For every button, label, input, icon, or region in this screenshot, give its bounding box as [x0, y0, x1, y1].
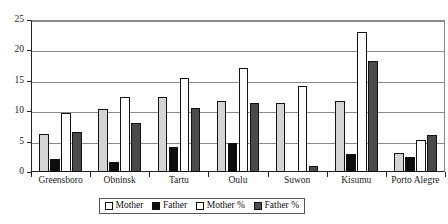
legend-label: Mother: [116, 201, 144, 211]
bar: [368, 61, 378, 172]
bar: [298, 86, 308, 172]
bar: [357, 32, 367, 172]
bar: [405, 157, 415, 172]
x-axis-tick-label: Oulu: [208, 176, 267, 186]
legend-item: Father: [152, 201, 187, 211]
legend-item: Mother: [105, 201, 143, 211]
bar: [309, 166, 319, 172]
x-axis-tick-label: Kisumu: [327, 176, 386, 186]
bar: [72, 132, 82, 172]
bar-group: [31, 20, 90, 172]
bar: [416, 140, 426, 172]
bar: [228, 143, 238, 172]
bar: [394, 153, 404, 172]
bar: [191, 108, 201, 172]
legend-swatch-icon: [152, 202, 160, 210]
y-axis-tick-label: 20: [4, 45, 24, 55]
y-axis-tick-label: 10: [4, 106, 24, 116]
legend-swatch-icon: [105, 202, 113, 210]
bar: [276, 103, 286, 172]
legend-label: Father %: [265, 201, 300, 211]
bar: [61, 113, 71, 172]
bar: [120, 97, 130, 172]
y-axis-tick-label: 5: [4, 137, 24, 147]
legend-label: Father: [163, 201, 187, 211]
bar: [335, 101, 345, 172]
bar: [131, 123, 141, 172]
bar: [346, 154, 356, 172]
bar: [158, 97, 168, 172]
bar: [109, 162, 119, 172]
x-axis-labels: GreensboroObninskTartuOuluSuwonKisumuPor…: [31, 176, 445, 192]
bar-group: [327, 20, 386, 172]
x-axis-tick-mark: [445, 172, 446, 177]
bar-group: [208, 20, 267, 172]
y-axis-tick-label: 15: [4, 76, 24, 86]
legend-item: Mother %: [196, 201, 245, 211]
bar: [39, 134, 49, 172]
bars-layer: [31, 20, 445, 172]
legend-label: Mother %: [207, 201, 245, 211]
bar: [180, 78, 190, 172]
bar: [250, 103, 260, 172]
x-axis-tick-label: Tartu: [149, 176, 208, 186]
x-axis-tick-label: Obninsk: [90, 176, 149, 186]
bar: [239, 68, 249, 172]
chart-legend: MotherFatherMother %Father %: [99, 198, 305, 214]
bar-group: [268, 20, 327, 172]
x-axis-tick-label: Porto Alegre: [386, 176, 445, 186]
bar: [217, 101, 227, 172]
bar-group: [386, 20, 445, 172]
bar: [98, 109, 108, 172]
y-axis-tick-label: 25: [4, 15, 24, 25]
legend-swatch-icon: [254, 202, 262, 210]
bar-chart: 0510152025 GreensboroObninskTartuOuluSuw…: [0, 0, 448, 224]
bar: [169, 147, 179, 172]
y-axis-tick-label: 0: [4, 167, 24, 177]
x-axis-tick-label: Greensboro: [31, 176, 90, 186]
x-axis-tick-label: Suwon: [268, 176, 327, 186]
bar: [427, 135, 437, 172]
bar-group: [90, 20, 149, 172]
legend-swatch-icon: [196, 202, 204, 210]
legend-item: Father %: [254, 201, 299, 211]
bar-group: [149, 20, 208, 172]
bar: [50, 159, 60, 172]
